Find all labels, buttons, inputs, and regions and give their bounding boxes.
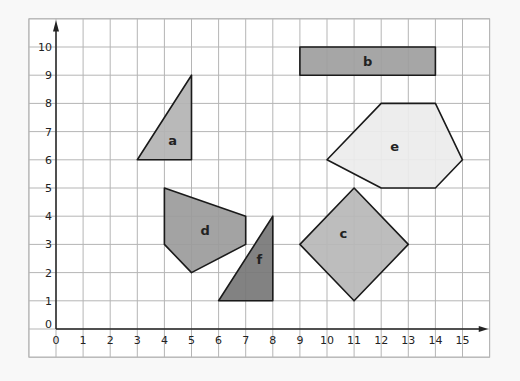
y-tick-label: 3: [45, 238, 52, 251]
x-tick-label: 0: [53, 334, 60, 347]
x-tick-label: 7: [242, 334, 249, 347]
y-tick-label: 10: [38, 41, 52, 54]
y-tick-label: 6: [45, 154, 52, 167]
x-tick-label: 5: [188, 334, 195, 347]
y-tick-label: 8: [45, 97, 52, 110]
x-tick-label: 12: [374, 334, 388, 347]
x-tick-label: 11: [347, 334, 361, 347]
shape-b: b: [300, 47, 436, 75]
shape-label: a: [168, 133, 177, 148]
x-tick-label: 4: [161, 334, 168, 347]
y-tick-label: 5: [45, 182, 52, 195]
x-tick-label: 14: [428, 334, 442, 347]
y-tick-label: 2: [45, 267, 52, 280]
y-tick-label: 0: [45, 318, 52, 331]
x-tick-label: 9: [296, 334, 303, 347]
x-tick-label: 2: [107, 334, 114, 347]
shape-label: b: [363, 54, 372, 69]
shape-label: e: [390, 139, 399, 154]
x-tick-label: 15: [456, 334, 470, 347]
shape-label: d: [200, 223, 209, 238]
grid-canvas: abcdef 012345678910111213141501234567891…: [0, 0, 520, 381]
y-tick-label: 1: [45, 295, 52, 308]
x-tick-label: 6: [215, 334, 222, 347]
y-tick-label: 4: [45, 210, 52, 223]
coordinate-grid-diagram: abcdef 012345678910111213141501234567891…: [0, 0, 520, 381]
x-tick-label: 8: [269, 334, 276, 347]
y-tick-label: 7: [45, 126, 52, 139]
shape-label: f: [256, 252, 262, 267]
x-tick-label: 1: [80, 334, 87, 347]
shape-label: c: [339, 226, 347, 241]
y-tick-label: 9: [45, 69, 52, 82]
x-tick-label: 10: [320, 334, 334, 347]
x-tick-label: 13: [401, 334, 415, 347]
x-tick-label: 3: [134, 334, 141, 347]
